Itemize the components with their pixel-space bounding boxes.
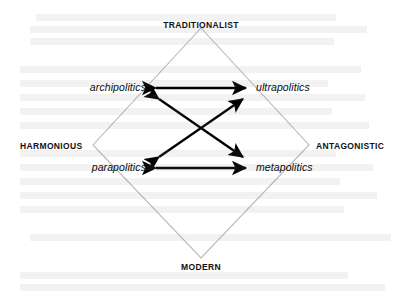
connector-arrows	[156, 88, 246, 168]
axis-pole-traditionalist: TRADITIONALIST	[163, 20, 239, 30]
axis-pole-harmonious: HARMONIOUS	[20, 141, 83, 151]
diamond-outline	[93, 28, 309, 258]
node-parapolitics: parapolitics	[92, 161, 146, 173]
node-archipolitics: archipolitics	[90, 81, 146, 93]
node-ultrapolitics: ultrapolitics	[256, 81, 310, 93]
axis-pole-modern: MODERN	[181, 262, 221, 272]
node-metapolitics: metapolitics	[256, 161, 313, 173]
axis-pole-antagonistic: ANTAGONISTIC	[316, 141, 384, 151]
